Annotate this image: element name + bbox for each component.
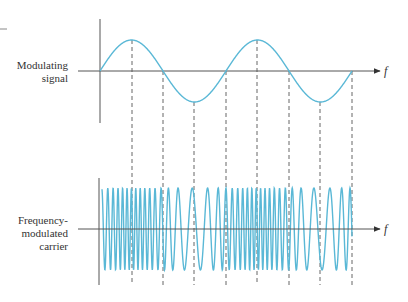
carrier-label-line2: modulated	[22, 227, 69, 239]
modulating-label-line2: signal	[42, 72, 68, 84]
modulating-label-line1: Modulating	[17, 59, 69, 71]
carrier-label-line3: carrier	[39, 240, 68, 252]
modulating-panel: f Modulating signal	[17, 19, 389, 123]
fm-diagram: f Modulating signal f Frequency- modulat…	[0, 0, 408, 302]
modulating-axis-label: f	[384, 64, 389, 78]
carrier-panel: f Frequency- modulated carrier	[18, 178, 389, 285]
carrier-label-line1: Frequency-	[18, 214, 68, 226]
carrier-axis-label: f	[384, 222, 389, 236]
